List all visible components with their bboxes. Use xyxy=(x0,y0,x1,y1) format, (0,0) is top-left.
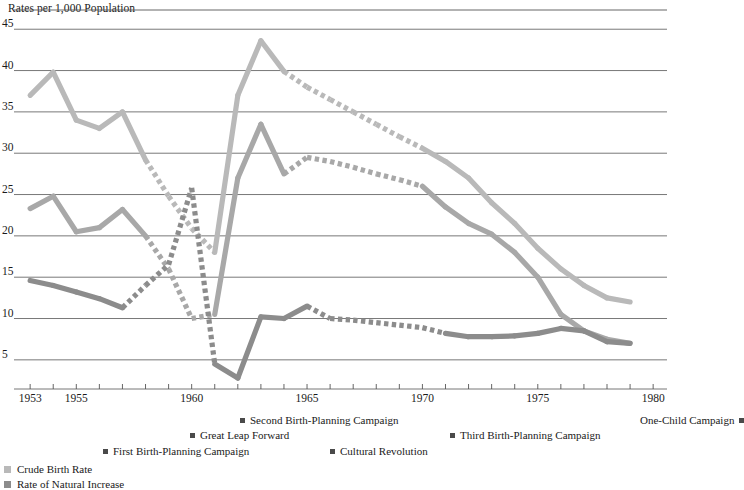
series-line-segment xyxy=(538,248,561,269)
campaign-annotation-label: Cultural Revolution xyxy=(340,445,428,457)
series-line-segment xyxy=(76,228,99,232)
series-line-segment xyxy=(99,112,122,129)
y-tick-label: 45 xyxy=(2,17,14,29)
campaign-annotation-label: First Birth-Planning Campaign xyxy=(113,445,249,457)
series-line-segment xyxy=(192,314,215,318)
series-line-segment xyxy=(99,299,122,308)
series-line-segment xyxy=(76,292,99,299)
campaign-annotation-label: Second Birth-Planning Campaign xyxy=(250,414,398,426)
square-marker-icon xyxy=(103,449,108,454)
series-line-segment xyxy=(492,336,515,337)
series-line-segment xyxy=(122,285,145,307)
series-line-segment xyxy=(215,95,238,252)
series-line-segment xyxy=(330,161,353,167)
square-marker-icon xyxy=(450,433,455,438)
series-line-segment xyxy=(353,112,376,124)
series-line-segment xyxy=(192,188,215,364)
series-line-segment xyxy=(30,196,53,208)
series-line-segment xyxy=(399,137,422,149)
series-line-segment xyxy=(30,72,53,95)
series-line-segment xyxy=(146,236,169,269)
legend-label: Crude Birth Rate xyxy=(17,463,92,475)
campaign-annotation-label: One-Child Campaign xyxy=(640,414,734,426)
series-line-segment xyxy=(584,285,607,297)
legend-item[interactable]: Crude Birth Rate xyxy=(4,463,92,475)
campaign-annotation: Third Birth-Planning Campaign xyxy=(450,429,601,441)
campaign-annotation: Cultural Revolution xyxy=(330,445,428,457)
series-line-segment xyxy=(307,306,330,318)
series-line-segment xyxy=(261,317,284,319)
series-line-segment xyxy=(284,306,307,318)
series-line-segment xyxy=(376,174,399,180)
series-line-segment xyxy=(261,41,284,72)
series-line-segment xyxy=(284,157,307,174)
series-line-segment xyxy=(215,364,238,378)
legend-item[interactable]: Rate of Natural Increase xyxy=(4,478,124,490)
x-tick-label: 1965 xyxy=(296,392,319,404)
series-line-segment xyxy=(238,124,261,178)
series-line-segment xyxy=(515,333,538,335)
square-marker-icon xyxy=(190,433,195,438)
x-tick-label: 1960 xyxy=(180,392,203,404)
x-tick-label: 1953 xyxy=(19,392,42,404)
legend-label: Rate of Natural Increase xyxy=(17,478,124,490)
series-line-segment xyxy=(53,72,76,120)
series-line-segment xyxy=(169,188,192,265)
series-line-segment xyxy=(353,167,376,174)
y-tick-label: 10 xyxy=(2,307,14,319)
series-line-segment xyxy=(492,203,515,224)
square-marker-icon xyxy=(330,449,335,454)
campaign-annotation-label: Third Birth-Planning Campaign xyxy=(460,429,601,441)
series-line-segment xyxy=(445,333,468,336)
series-line-segment xyxy=(53,285,76,292)
x-tick-label: 1970 xyxy=(411,392,434,404)
series-line-segment xyxy=(30,281,53,286)
series-line-segment xyxy=(376,124,399,136)
series-line-segment xyxy=(192,228,215,252)
x-tick-label: 1955 xyxy=(65,392,88,404)
series-line-segment xyxy=(330,319,353,321)
series-line-segment xyxy=(146,265,169,286)
series-line-segment xyxy=(330,99,353,111)
series-line-segment xyxy=(445,207,468,224)
series-line-segment xyxy=(99,209,122,227)
series-line-segment xyxy=(284,71,307,87)
series-line-segment xyxy=(399,325,422,327)
x-tick-label: 1980 xyxy=(642,392,665,404)
campaign-annotation: Second Birth-Planning Campaign xyxy=(240,414,398,426)
series-line-segment xyxy=(261,124,284,174)
chart-plot-area xyxy=(0,0,681,400)
series-line-segment xyxy=(469,223,492,234)
series-line-segment xyxy=(238,317,261,378)
series-line-segment xyxy=(353,320,376,322)
series-line-segment xyxy=(53,196,76,232)
series-line-segment xyxy=(122,209,145,235)
x-tick-label: 1975 xyxy=(526,392,549,404)
series-line-segment xyxy=(607,342,630,344)
series-line-segment xyxy=(307,87,330,99)
series-line-segment xyxy=(561,328,584,330)
series-line-segment xyxy=(492,234,515,252)
series-line-segment xyxy=(146,160,169,196)
series-line-segment xyxy=(469,178,492,203)
square-marker-icon xyxy=(739,418,744,423)
y-tick-label: 15 xyxy=(2,265,14,277)
series-line-segment xyxy=(307,157,330,161)
campaign-annotation: Great Leap Forward xyxy=(190,429,289,441)
series-line-segment xyxy=(76,120,99,128)
campaign-annotation: One-Child Campaign xyxy=(640,414,744,426)
series-line-segment xyxy=(422,186,445,207)
y-tick-label: 35 xyxy=(2,100,14,112)
square-marker-icon xyxy=(240,418,245,423)
series-line-segment xyxy=(538,277,561,314)
series-line-segment xyxy=(515,252,538,277)
series-line-segment xyxy=(169,269,192,319)
legend-swatch-icon xyxy=(4,481,11,488)
series-line-segment xyxy=(422,328,445,334)
campaign-annotation: First Birth-Planning Campaign xyxy=(103,445,249,457)
series-line-segment xyxy=(538,328,561,333)
series-line-segment xyxy=(399,180,422,187)
y-tick-label: 5 xyxy=(2,348,8,360)
y-tick-label: 25 xyxy=(2,183,14,195)
